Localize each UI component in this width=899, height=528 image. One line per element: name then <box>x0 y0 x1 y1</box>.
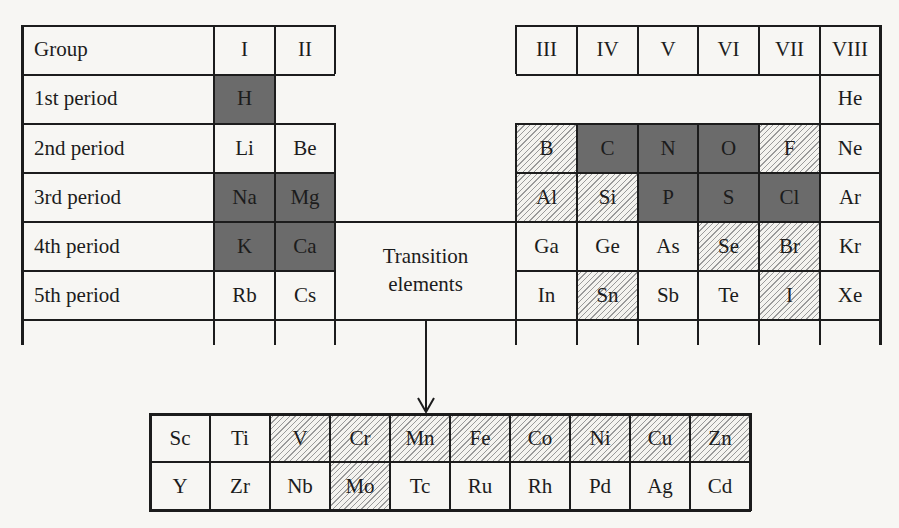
element-Zn-label: Zn <box>708 426 731 451</box>
element-Co-label: Co <box>528 426 553 451</box>
element-Sc: Sc <box>150 414 210 462</box>
element-V-label: V <box>292 426 307 451</box>
element-Y: Y <box>150 462 210 510</box>
element-Ti-label: Ti <box>231 426 249 451</box>
grid-line <box>449 413 451 511</box>
element-Y-label: Y <box>172 474 187 499</box>
element-Cr: Cr <box>330 414 390 462</box>
element-Ru-label: Ru <box>468 474 493 499</box>
element-Ni: Ni <box>570 414 630 462</box>
element-Ni-label: Ni <box>590 426 611 451</box>
element-Zr: Zr <box>210 462 270 510</box>
element-Nb: Nb <box>270 462 330 510</box>
grid-line <box>329 413 331 511</box>
element-Fe: Fe <box>450 414 510 462</box>
element-Tc-label: Tc <box>410 474 431 499</box>
element-Cu: Cu <box>630 414 690 462</box>
element-Mn: Mn <box>390 414 450 462</box>
element-Ag-label: Ag <box>647 474 673 499</box>
element-Ru: Ru <box>450 462 510 510</box>
element-Cd: Cd <box>690 462 750 510</box>
grid-line <box>149 413 152 511</box>
element-Cr-label: Cr <box>350 426 371 451</box>
grid-line <box>629 413 631 511</box>
element-Ti: Ti <box>210 414 270 462</box>
grid-line <box>209 413 211 511</box>
element-Zn: Zn <box>690 414 750 462</box>
element-Mo-label: Mo <box>345 474 374 499</box>
element-Sc-label: Sc <box>170 426 191 451</box>
grid-line <box>269 413 271 511</box>
element-Cd-label: Cd <box>708 474 733 499</box>
element-Zr-label: Zr <box>230 474 250 499</box>
element-Rh-label: Rh <box>528 474 553 499</box>
grid-line <box>749 413 752 511</box>
element-Fe-label: Fe <box>470 426 491 451</box>
grid-line <box>389 413 391 511</box>
element-Pd: Pd <box>570 462 630 510</box>
element-Ag: Ag <box>630 462 690 510</box>
grid-line <box>509 413 511 511</box>
grid-line <box>689 413 691 511</box>
element-Cu-label: Cu <box>648 426 673 451</box>
element-Tc: Tc <box>390 462 450 510</box>
element-Nb-label: Nb <box>287 474 313 499</box>
element-V: V <box>270 414 330 462</box>
element-Rh: Rh <box>510 462 570 510</box>
element-Mn-label: Mn <box>405 426 434 451</box>
element-Mo: Mo <box>330 462 390 510</box>
grid-line <box>569 413 571 511</box>
element-Pd-label: Pd <box>589 474 611 499</box>
element-Co: Co <box>510 414 570 462</box>
